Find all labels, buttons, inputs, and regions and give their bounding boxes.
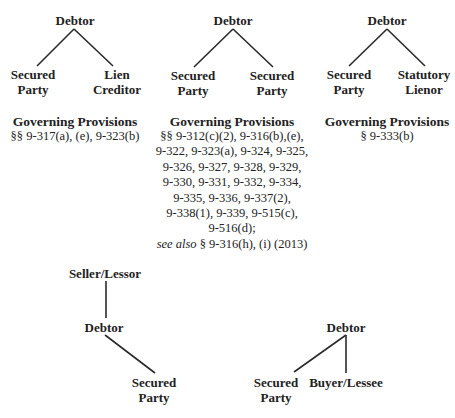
node-debtor: Debtor (214, 13, 253, 28)
provision-line: 9-516(d); (156, 221, 308, 236)
node-secured-party-a: Secured Party (171, 68, 216, 98)
governing-provisions-text: §§ 9-317(a), (e), 9-323(b) (11, 129, 140, 144)
see-also-line: see also § 9-316(h), (i) (2013) (156, 237, 308, 252)
node-secured-party: Secured Party (254, 375, 299, 405)
provision-line: §§ 9-312(c)(2), 9-316(b),(e), (156, 129, 308, 144)
node-buyer-lessee: Buyer/Lessee (309, 375, 383, 390)
edge-debtor-secured-party-1 (37, 29, 74, 66)
node-secured-party-b: Secured Party (250, 68, 295, 98)
governing-provisions-text: § 9-333(b) (360, 129, 413, 144)
see-also-text: § 9-316(h), (i) (2013) (197, 237, 308, 251)
node-label-line: Party (250, 83, 295, 98)
node-debtor: Debtor (368, 13, 407, 28)
provision-line: 9-338(1), 9-339, 9-515(c), (156, 206, 308, 221)
node-label-line: Party (171, 83, 216, 98)
provision-line: 9-322, 9-323(a), 9-324, 9-325, (156, 144, 308, 159)
node-label-line: Party (327, 82, 372, 97)
provision-line: 9-330, 9-331, 9-332, 9-334, (156, 175, 308, 190)
see-also-label: see also (157, 237, 197, 251)
node-label-line: Creditor (93, 82, 141, 97)
node-label-line: Party (11, 82, 56, 97)
node-label-line: Statutory (398, 67, 451, 82)
node-secured-party: Secured Party (132, 375, 177, 405)
governing-provisions-title: Governing Provisions (325, 114, 450, 129)
node-debtor: Debtor (56, 13, 95, 28)
node-label-line: Secured (250, 68, 295, 83)
node-label-line: Secured (254, 375, 299, 390)
governing-provisions-title: Governing Provisions (170, 114, 295, 129)
edge-debtor-secured-party-2b (233, 29, 273, 67)
edge-debtor-secured-party-2a (194, 29, 233, 67)
node-label-line: Secured (11, 67, 56, 82)
node-secured-party: Secured Party (11, 67, 56, 97)
edge-debtor-lien-creditor (74, 29, 113, 66)
governing-provisions-text: §§ 9-312(c)(2), 9-316(b),(e), 9-322, 9-3… (156, 129, 308, 252)
node-debtor: Debtor (327, 320, 366, 335)
node-label-line: Party (132, 390, 177, 405)
node-label-line: Secured (171, 68, 216, 83)
edge-debtor-secured-party-3 (349, 29, 387, 66)
provision-line: § 9-333(b) (360, 129, 413, 144)
provision-line: §§ 9-317(a), (e), 9-323(b) (11, 129, 140, 144)
edge-debtor-statutory-lienor (387, 29, 425, 66)
node-label-line: Secured (327, 67, 372, 82)
provision-line: 9-326, 9-327, 9-328, 9-329, (156, 160, 308, 175)
node-statutory-lienor: Statutory Lienor (398, 67, 451, 97)
edge-debtor-secured-party-4 (105, 335, 155, 373)
node-lien-creditor: Lien Creditor (93, 67, 141, 97)
node-label-line: Party (254, 390, 299, 405)
provision-line: 9-335, 9-336, 9-337(2), (156, 191, 308, 206)
node-label-line: Lienor (398, 82, 451, 97)
node-debtor: Debtor (85, 320, 124, 335)
edge-debtor-secured-party-5 (294, 335, 346, 372)
node-secured-party: Secured Party (327, 67, 372, 97)
node-label-line: Secured (132, 375, 177, 390)
node-label-line: Lien (93, 67, 141, 82)
governing-provisions-title: Governing Provisions (13, 114, 138, 129)
node-seller-lessor: Seller/Lessor (69, 266, 141, 281)
